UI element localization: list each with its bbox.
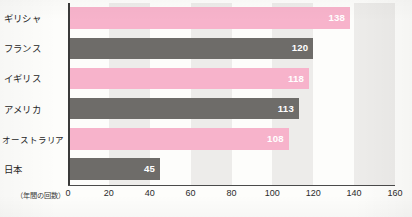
x-tick-label: 80 <box>226 188 236 198</box>
bar-value-label: 118 <box>288 74 309 84</box>
bar-row: オーストラリア108 <box>0 124 412 154</box>
bar-track: 138 <box>68 3 395 33</box>
x-tick-label: 160 <box>387 188 402 198</box>
bar-value-label: 108 <box>267 134 289 144</box>
bar-value-label: 113 <box>278 104 299 114</box>
bar: 118 <box>68 68 309 89</box>
bar: 113 <box>68 98 299 119</box>
bar-value-label: 45 <box>144 164 160 174</box>
category-label: 日本 <box>4 154 66 184</box>
bar-row: フランス120 <box>0 33 412 63</box>
category-label: アメリカ <box>4 94 66 124</box>
bar-track: 118 <box>68 63 395 93</box>
x-tick-label: 120 <box>306 188 321 198</box>
x-tick-label: 0 <box>65 188 70 198</box>
x-tick-label: 140 <box>347 188 362 198</box>
y-axis-line <box>68 3 70 185</box>
bar-row: 日本45 <box>0 154 412 184</box>
x-tick-label: 100 <box>265 188 280 198</box>
category-label: ギリシャ <box>4 3 66 33</box>
bar-track: 45 <box>68 154 395 184</box>
bar-rows: ギリシャ138フランス120イギリス118アメリカ113オーストラリア108日本… <box>0 3 412 185</box>
bar: 120 <box>68 38 313 59</box>
bar-track: 108 <box>68 124 395 154</box>
x-tick-label: 60 <box>186 188 196 198</box>
bar: 108 <box>68 128 289 149</box>
bar-row: イギリス118 <box>0 63 412 93</box>
bar-row: ギリシャ138 <box>0 3 412 33</box>
category-label: イギリス <box>4 63 66 93</box>
x-axis-unit-note: （年間の回数） <box>16 190 65 200</box>
bar-value-label: 138 <box>328 13 350 23</box>
x-axis-line <box>68 185 395 186</box>
bar-row: アメリカ113 <box>0 94 412 124</box>
category-label: オーストラリア <box>2 124 68 154</box>
x-tick-label: 40 <box>145 188 155 198</box>
bar-track: 113 <box>68 94 395 124</box>
bar: 45 <box>68 158 160 179</box>
bar-track: 120 <box>68 33 395 63</box>
category-label: フランス <box>4 33 66 63</box>
bar-value-label: 120 <box>292 43 314 53</box>
bar-chart: ギリシャ138フランス120イギリス118アメリカ113オーストラリア108日本… <box>0 0 412 217</box>
x-tick-label: 20 <box>104 188 114 198</box>
bar: 138 <box>68 7 350 28</box>
